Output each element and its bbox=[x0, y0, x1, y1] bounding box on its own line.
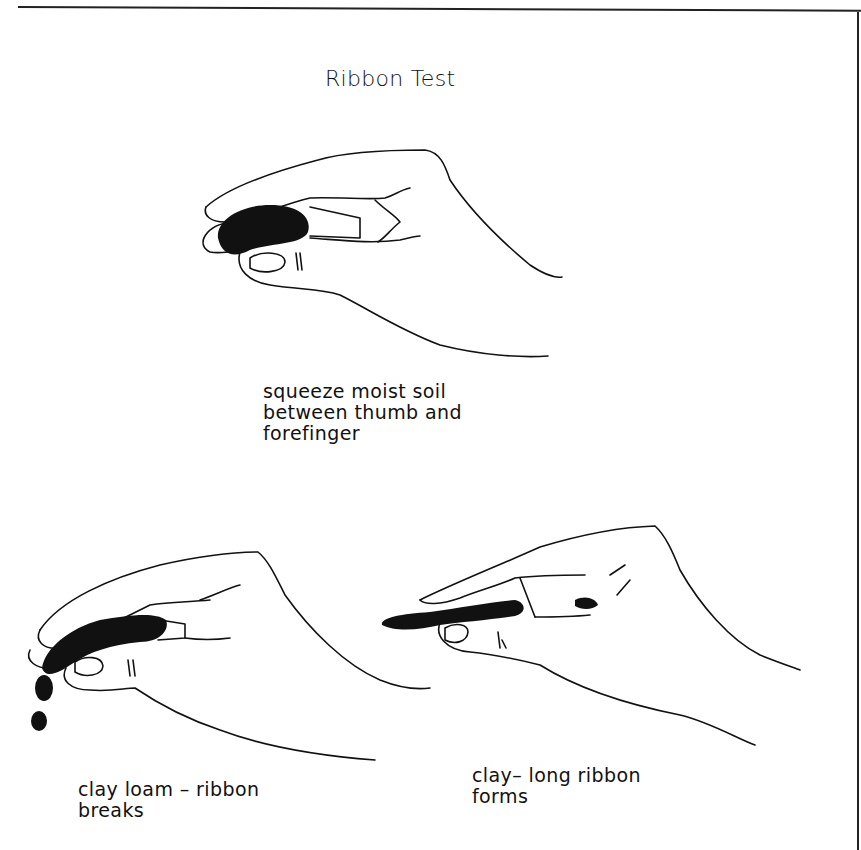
caption-line: between thumb and bbox=[263, 402, 462, 423]
caption-line: breaks bbox=[78, 800, 259, 821]
caption-clay: clay– long ribbon forms bbox=[472, 765, 641, 807]
soil-smudge bbox=[575, 598, 598, 609]
hand-clay-illustration bbox=[420, 526, 800, 745]
hand-squeeze-illustration bbox=[203, 150, 562, 357]
caption-line: squeeze moist soil bbox=[263, 381, 462, 402]
soil-ball bbox=[218, 205, 309, 254]
caption-line: forefinger bbox=[263, 423, 462, 444]
soil-drop-1 bbox=[35, 675, 53, 701]
caption-line: clay– long ribbon bbox=[472, 765, 641, 786]
caption-line: clay loam – ribbon bbox=[78, 779, 259, 800]
hand-clay-loam-illustration bbox=[29, 552, 430, 760]
soil-ribbon-short bbox=[42, 615, 167, 674]
caption-line: forms bbox=[472, 786, 641, 807]
soil-drop-2 bbox=[31, 711, 47, 731]
caption-clay-loam: clay loam – ribbon breaks bbox=[78, 779, 259, 821]
caption-squeeze: squeeze moist soil between thumb and for… bbox=[263, 381, 462, 444]
